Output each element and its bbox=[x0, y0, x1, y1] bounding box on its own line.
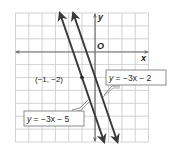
point-neg1-neg2 bbox=[80, 76, 84, 80]
eq1-label: y = −3x − 2 bbox=[108, 73, 152, 83]
x-axis-label: x bbox=[140, 53, 147, 63]
leader-eq1-b bbox=[103, 88, 120, 97]
point-label: (−1, −2) bbox=[35, 75, 63, 84]
origin-label: O bbox=[97, 41, 104, 51]
eq2-label: y = −3x − 5 bbox=[26, 114, 70, 124]
coordinate-plane: y x O (−1, −2) y = −3x − 2 y = −3x − 5 bbox=[0, 0, 176, 153]
y-axis-label: y bbox=[97, 12, 104, 22]
